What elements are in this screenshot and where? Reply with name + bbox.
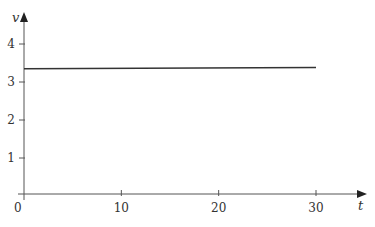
y-tick-label: 4 — [7, 37, 15, 51]
x-tick-label: 10 — [114, 201, 129, 215]
y-tick-label: 3 — [7, 75, 15, 89]
data-series — [24, 68, 316, 69]
y-tick-label: 1 — [7, 151, 15, 165]
y-tick-label: 2 — [7, 113, 15, 127]
y-axis-arrow-icon — [20, 12, 28, 22]
x-axis-arrow-icon — [357, 190, 367, 198]
series-line — [24, 68, 316, 69]
x-tick-label: 30 — [308, 201, 323, 215]
axes — [18, 12, 367, 200]
velocity-time-chart: 102030 1234 0 t v — [0, 0, 375, 227]
origin-label: 0 — [14, 201, 22, 215]
x-tick-label: 20 — [211, 201, 226, 215]
x-axis-label: t — [358, 198, 364, 213]
y-ticks: 1234 — [7, 37, 25, 165]
y-axis-label: v — [12, 10, 20, 25]
